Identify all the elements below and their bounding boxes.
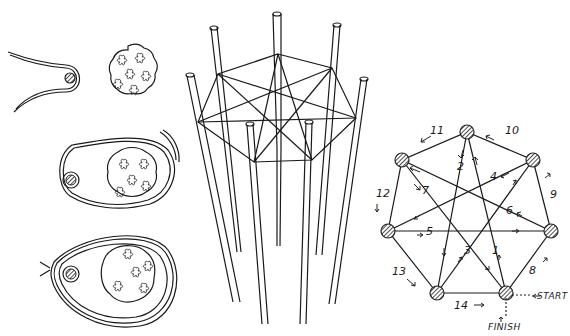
diagram-canvas: 1 2 3 4 5 6 7 8 9 10 11 12 13 14 START F…	[0, 0, 570, 336]
arrow-icon	[410, 166, 420, 172]
arrow-icon	[417, 233, 423, 237]
node-upper-left	[395, 153, 409, 167]
arrow-icon	[375, 204, 379, 212]
step-label: 12	[376, 187, 390, 200]
step-1-cord-loop	[8, 52, 80, 112]
node-lower-right	[499, 286, 513, 300]
node-upper-right	[526, 153, 540, 167]
bead-icon	[65, 73, 75, 83]
arrow-icon	[512, 229, 519, 233]
step-label: 3	[464, 244, 471, 257]
arrow-icon	[414, 184, 420, 190]
step-label: 7	[422, 184, 429, 197]
start-label: START	[537, 291, 569, 301]
arrow-icon	[543, 258, 547, 262]
pole	[246, 122, 268, 324]
node-lower-left	[430, 286, 444, 300]
bead-wrapping-panel	[8, 44, 179, 327]
step-label: 6	[506, 204, 513, 217]
arrow-icon	[486, 135, 494, 140]
step-label: 8	[529, 264, 536, 277]
step-label: 4	[490, 170, 497, 183]
arrow-icon	[474, 303, 484, 307]
step-2-cord-loop	[60, 130, 179, 208]
arrow-icon	[421, 136, 431, 142]
pole	[316, 23, 341, 255]
pole	[186, 73, 240, 302]
node-top	[460, 125, 474, 139]
step-label: 11	[430, 124, 444, 137]
node-left	[381, 224, 395, 238]
arrow-icon	[545, 173, 550, 178]
pole-frame-panel	[186, 12, 368, 324]
step-label: 9	[550, 188, 557, 201]
node-right	[544, 224, 558, 238]
arrow-icon	[407, 279, 415, 286]
step-label: 2	[457, 160, 464, 173]
pole	[210, 26, 241, 252]
step-label: 13	[392, 265, 406, 278]
step-label: 10	[505, 124, 519, 137]
lacing-order-panel: 1 2 3 4 5 6 7 8 9 10 11 12 13 14 START F…	[375, 124, 569, 332]
arrow-icon	[414, 215, 420, 219]
arrow-icon	[483, 264, 489, 270]
flower-cluster-1	[109, 44, 157, 95]
step-label: 5	[426, 225, 433, 238]
step-label: 1	[492, 244, 499, 257]
finish-label: FINISH	[488, 322, 521, 332]
step-3-cord-loop	[40, 236, 177, 327]
step-label: 14	[454, 299, 468, 312]
